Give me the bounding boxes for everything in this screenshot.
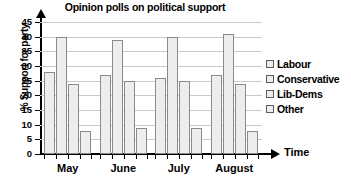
bar-conservative-july [167,37,178,154]
y-tick-mark [35,110,40,111]
bar-labour-june [100,75,111,154]
y-tick-mark [35,51,40,52]
bar-other-july [191,128,202,154]
gridline [40,22,262,23]
bar-labour-august [211,75,222,154]
legend-swatch-icon [266,60,274,68]
y-tick-label: 45 [10,17,32,26]
bar-other-may [80,131,91,154]
x-tick-mark [191,155,192,159]
x-tick-mark [202,155,203,159]
x-axis-arrow-icon [271,149,280,159]
y-tick-mark [35,37,40,38]
bar-lib-dems-june [124,81,135,154]
x-tick-mark [44,155,45,159]
y-tick-label: 35 [10,46,32,55]
y-tick-label: 30 [10,61,32,70]
bar-labour-may [44,72,55,154]
y-tick-mark [35,66,40,67]
y-tick-label: 5 [10,134,32,143]
x-category-label-july: July [149,162,209,174]
x-category-label-august: August [204,162,264,174]
bar-lib-dems-may [68,84,79,154]
x-tick-mark [179,155,180,159]
y-tick-label: 20 [10,90,32,99]
y-tick-mark [35,95,40,96]
x-tick-mark [124,155,125,159]
y-axis-arrow-icon [36,9,46,18]
legend-item-label: Other [277,103,304,115]
bar-other-august [247,131,258,154]
y-tick-label: 10 [10,120,32,129]
legend-swatch-icon [266,75,274,83]
x-tick-mark [80,155,81,159]
legend-item-label: Lib-Dems [277,88,322,100]
legend: LabourConservativeLib-DemsOther [266,57,339,117]
x-tick-mark [223,155,224,159]
bar-lib-dems-august [235,84,246,154]
x-axis-label: Time [284,146,309,158]
bar-conservative-august [223,34,234,154]
x-tick-mark [167,155,168,159]
x-tick-mark [211,155,212,159]
y-tick-label: 40 [10,32,32,41]
x-tick-mark [147,155,148,159]
legend-item-other[interactable]: Other [266,102,339,116]
x-tick-mark [91,155,92,159]
x-category-label-june: June [93,162,153,174]
legend-item-label: Labour [277,58,311,70]
bar-other-june [136,128,147,154]
y-tick-label: 25 [10,76,32,85]
y-tick-label: 15 [10,105,32,114]
y-tick-mark [35,22,40,23]
x-tick-mark [258,155,259,159]
legend-item-conservative[interactable]: Conservative [266,72,339,86]
y-tick-mark [35,139,40,140]
legend-swatch-icon [266,90,274,98]
legend-item-labour[interactable]: Labour [266,57,339,71]
x-tick-mark [136,155,137,159]
y-tick-mark [35,154,40,155]
y-tick-label: 0 [10,149,32,158]
legend-swatch-icon [266,105,274,113]
x-tick-mark [68,155,69,159]
y-tick-mark [35,81,40,82]
bar-labour-july [155,78,166,154]
x-category-label-may: May [38,162,98,174]
plot-area [40,22,262,154]
x-tick-mark [100,155,101,159]
bar-chart: Opinion polls on political support % Sup… [0,0,351,188]
legend-item-lib-dems[interactable]: Lib-Dems [266,87,339,101]
x-tick-mark [56,155,57,159]
x-tick-mark [155,155,156,159]
x-tick-mark [247,155,248,159]
x-tick-mark [112,155,113,159]
y-tick-mark [35,125,40,126]
bar-lib-dems-july [179,81,190,154]
bar-conservative-may [56,37,67,154]
x-tick-mark [235,155,236,159]
legend-item-label: Conservative [277,73,339,85]
bar-conservative-june [112,40,123,154]
